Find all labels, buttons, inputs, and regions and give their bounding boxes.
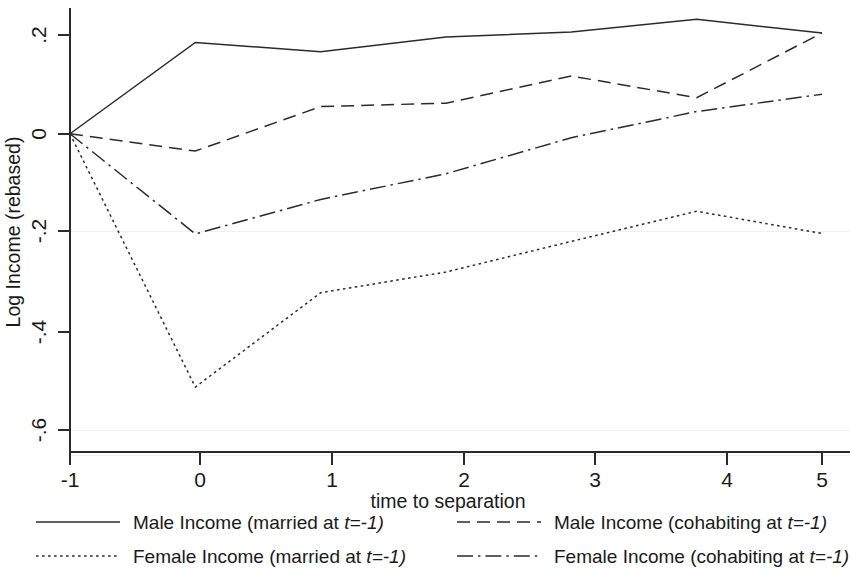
x-axis-tick-labels: -1 0 1 2 3 4 5	[61, 468, 828, 491]
y-tick-label: .2	[27, 26, 50, 44]
legend-label-female-cohabiting: Female Income (cohabiting at t=-1)	[554, 546, 849, 567]
y-tick-label: -.4	[27, 319, 50, 344]
x-axis-ticks	[70, 452, 822, 465]
series-line-female-cohabiting	[70, 94, 822, 234]
x-tick-label: -1	[61, 468, 80, 491]
x-tick-label: 5	[816, 468, 828, 491]
y-axis-title: Log Income (rebased)	[2, 137, 24, 328]
x-tick-label: 2	[458, 468, 470, 491]
y-axis-tick-labels: .2 0 -.2 -.4 -.6	[27, 26, 50, 442]
y-tick-label: -.6	[27, 418, 50, 443]
chart-svg: .2 0 -.2 -.4 -.6 Log Income (rebased) -1…	[0, 0, 850, 572]
y-tick-label: -.2	[27, 219, 50, 244]
x-axis-title: time to separation	[370, 490, 525, 512]
series-layer	[70, 19, 822, 387]
chart-legend: Male Income (married at t=-1) Male Incom…	[36, 512, 849, 567]
x-tick-label: 1	[326, 468, 338, 491]
legend-label-male-cohabiting: Male Income (cohabiting at t=-1)	[554, 512, 827, 533]
series-line-male-married	[70, 19, 822, 134]
legend-label-male-married: Male Income (married at t=-1)	[133, 512, 384, 533]
y-tick-label: 0	[27, 128, 50, 140]
x-tick-label: 3	[589, 468, 601, 491]
faint-gridlines	[70, 231, 850, 455]
legend-label-female-married: Female Income (married at t=-1)	[133, 546, 406, 567]
y-axis-ticks	[58, 35, 70, 430]
chart-figure: .2 0 -.2 -.4 -.6 Log Income (rebased) -1…	[0, 0, 850, 572]
x-tick-label: 0	[194, 468, 206, 491]
x-tick-label: 4	[721, 468, 733, 491]
series-line-female-married	[70, 134, 822, 387]
